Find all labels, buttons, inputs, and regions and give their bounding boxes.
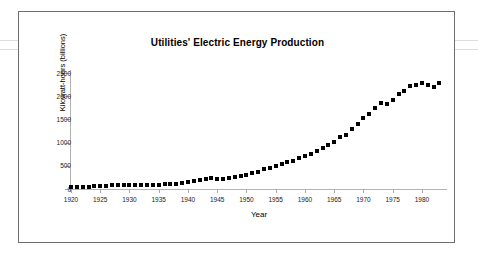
data-point bbox=[326, 143, 330, 147]
data-point bbox=[280, 162, 284, 166]
x-tick-mark bbox=[217, 189, 218, 193]
x-tick-mark bbox=[129, 189, 130, 193]
y-tick-label: 2000 bbox=[41, 93, 71, 100]
data-point bbox=[244, 173, 248, 177]
data-point bbox=[180, 181, 184, 185]
x-tick-mark bbox=[246, 189, 247, 193]
data-point bbox=[250, 171, 254, 175]
data-point bbox=[215, 177, 219, 181]
data-point bbox=[303, 154, 307, 158]
data-point bbox=[408, 84, 412, 88]
data-point bbox=[356, 122, 360, 126]
data-point bbox=[221, 177, 225, 181]
data-point bbox=[239, 174, 243, 178]
x-tick-mark bbox=[422, 189, 423, 193]
y-tick-label: 1000 bbox=[41, 139, 71, 146]
data-point bbox=[385, 102, 389, 106]
data-point bbox=[367, 112, 371, 116]
x-tick-label: 1980 bbox=[405, 196, 439, 204]
data-point bbox=[321, 146, 325, 150]
data-point bbox=[432, 85, 436, 89]
data-point bbox=[262, 167, 266, 171]
data-point bbox=[98, 184, 102, 188]
data-point bbox=[157, 183, 161, 187]
y-tick-label: 1500 bbox=[41, 116, 71, 123]
x-tick-mark bbox=[334, 189, 335, 193]
x-tick-mark bbox=[305, 189, 306, 193]
data-point bbox=[285, 160, 289, 164]
data-point bbox=[338, 135, 342, 139]
data-point bbox=[209, 176, 213, 180]
data-point bbox=[350, 127, 354, 131]
data-point bbox=[344, 133, 348, 137]
plot-area bbox=[71, 73, 443, 189]
x-tick-mark bbox=[159, 189, 160, 193]
x-tick-mark bbox=[71, 189, 72, 193]
x-axis-line bbox=[71, 189, 447, 190]
data-point bbox=[174, 182, 178, 186]
y-tick-label: 2500 bbox=[41, 70, 71, 77]
x-tick-mark bbox=[276, 189, 277, 193]
data-point bbox=[391, 98, 395, 102]
data-point bbox=[414, 83, 418, 87]
x-tick-mark bbox=[393, 189, 394, 193]
chart-frame: Utilities' Electric Energy Production Ki… bbox=[18, 11, 455, 243]
data-point bbox=[379, 101, 383, 105]
data-point bbox=[139, 183, 143, 187]
x-axis-title: Year bbox=[71, 210, 447, 219]
x-tick-mark bbox=[100, 189, 101, 193]
data-point bbox=[116, 183, 120, 187]
data-point bbox=[75, 185, 79, 189]
data-point bbox=[332, 140, 336, 144]
x-tick-mark bbox=[363, 189, 364, 193]
data-point bbox=[104, 184, 108, 188]
data-point bbox=[133, 183, 137, 187]
data-point bbox=[198, 178, 202, 182]
data-point bbox=[227, 176, 231, 180]
chart-title: Utilities' Electric Energy Production bbox=[19, 37, 456, 48]
data-point bbox=[420, 81, 424, 85]
data-point bbox=[163, 182, 167, 186]
data-point bbox=[69, 185, 73, 189]
data-point bbox=[297, 156, 301, 160]
data-point bbox=[361, 116, 365, 120]
data-point bbox=[168, 182, 172, 186]
data-point bbox=[315, 149, 319, 153]
data-point bbox=[256, 170, 260, 174]
data-point bbox=[204, 177, 208, 181]
data-point bbox=[151, 183, 155, 187]
data-point bbox=[426, 83, 430, 87]
data-point bbox=[145, 183, 149, 187]
data-point bbox=[110, 183, 114, 187]
data-point bbox=[397, 92, 401, 96]
y-tick-label: 500 bbox=[41, 162, 71, 169]
data-point bbox=[122, 183, 126, 187]
x-tick-mark bbox=[188, 189, 189, 193]
data-point bbox=[309, 152, 313, 156]
data-point bbox=[192, 179, 196, 183]
data-point bbox=[437, 81, 441, 85]
y-tick-label: 0 bbox=[41, 186, 71, 193]
data-point bbox=[268, 166, 272, 170]
data-point bbox=[274, 164, 278, 168]
data-point bbox=[186, 180, 190, 184]
data-point bbox=[373, 106, 377, 110]
data-point bbox=[87, 185, 91, 189]
data-point bbox=[81, 185, 85, 189]
data-point bbox=[127, 183, 131, 187]
data-point bbox=[291, 159, 295, 163]
data-point bbox=[92, 184, 96, 188]
data-point bbox=[233, 175, 237, 179]
data-point bbox=[402, 89, 406, 93]
